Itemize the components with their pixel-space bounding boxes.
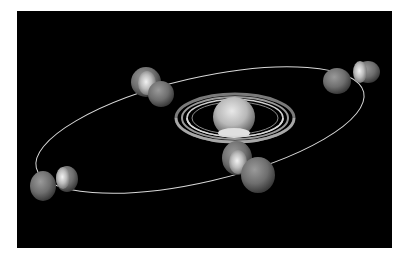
moon-cutaway-bottom-right bbox=[222, 141, 275, 193]
moon-cutaway-top-left bbox=[131, 67, 174, 107]
saturn-orbit-diagram bbox=[0, 0, 411, 265]
